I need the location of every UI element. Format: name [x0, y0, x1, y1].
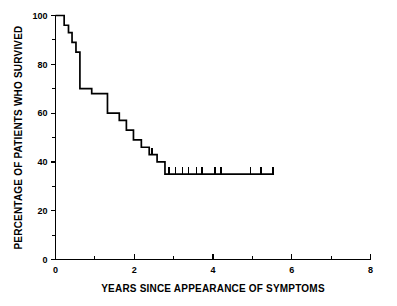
kaplan-meier-plot: 020406080100 02468 YEARS SINCE APPEARANC…	[0, 0, 397, 306]
x-axis-tick-label: 2	[132, 265, 137, 275]
x-axis-tick-labels: 02468	[53, 265, 373, 275]
y-axis-tick-label: 0	[42, 255, 47, 265]
survival-curve-figure: 020406080100 02468 YEARS SINCE APPEARANC…	[0, 0, 397, 306]
x-axis-tick-label: 8	[368, 265, 373, 275]
y-axis-tick-label: 100	[32, 11, 47, 21]
y-axis-tick-label: 20	[37, 206, 47, 216]
axes-group	[56, 16, 371, 260]
x-axis-tick-label: 4	[210, 265, 215, 275]
y-axis-tick-label: 60	[37, 108, 47, 118]
x-axis-major-ticks	[56, 254, 371, 260]
y-axis-title: PERCENTAGE OF PATIENTS WHO SURVIVED	[13, 25, 24, 249]
x-axis-title: YEARS SINCE APPEARANCE OF SYMPTOMS	[101, 283, 325, 294]
x-axis-tick-label: 6	[289, 265, 294, 275]
survival-step-curve	[56, 16, 275, 175]
y-axis-tick-label: 40	[37, 157, 47, 167]
x-axis-tick-label: 0	[53, 265, 58, 275]
censoring-marks-group	[152, 148, 273, 175]
y-axis-tick-labels: 020406080100	[32, 11, 47, 265]
y-axis-tick-label: 80	[37, 60, 47, 70]
